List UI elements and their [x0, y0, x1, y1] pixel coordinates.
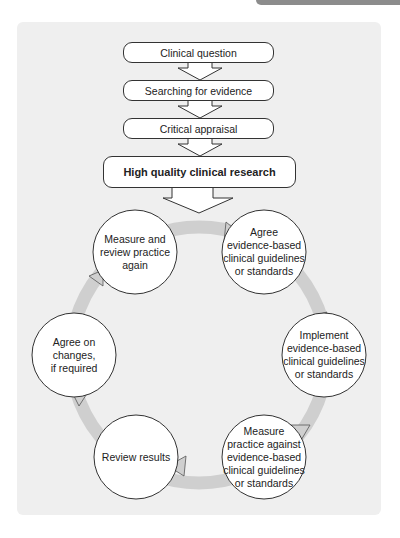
cycle-label: Review results — [102, 451, 170, 464]
cycle-node-measure-against: Measure practice against evidence-based … — [222, 415, 306, 499]
flow-label: Clinical question — [160, 47, 236, 59]
flow-label: Critical appraisal — [160, 123, 238, 135]
arrow-down-icon — [178, 100, 222, 118]
flow-label: Searching for evidence — [145, 85, 252, 97]
arrow-down-icon — [178, 138, 222, 156]
cycle-node-review-results: Review results — [94, 415, 178, 499]
flow-box-searching-for-evidence: Searching for evidence — [123, 80, 274, 101]
cycle-label: Measure and review practice again — [100, 233, 170, 272]
cycle-label: Agree on changes, if required — [32, 336, 116, 375]
cycle-node-agree-changes: Agree on changes, if required — [32, 313, 116, 397]
flow-label: High quality clinical research — [123, 166, 275, 178]
cycle-node-measure-again: Measure and review practice again — [93, 210, 177, 294]
flow-box-high-quality-research: High quality clinical research — [103, 156, 296, 188]
big-arrow-down-icon — [163, 187, 233, 213]
cycle-node-agree-guidelines: Agree evidence-based clinical guidelines… — [222, 210, 306, 294]
flow-box-clinical-question: Clinical question — [123, 42, 274, 63]
cycle-label: Implement evidence-based clinical guidel… — [283, 329, 365, 381]
cycle-node-implement: Implement evidence-based clinical guidel… — [282, 313, 366, 397]
arrow-down-icon — [178, 62, 222, 80]
flow-box-critical-appraisal: Critical appraisal — [123, 118, 274, 139]
cycle-label: Agree evidence-based clinical guidelines… — [223, 226, 305, 278]
cycle-label: Measure practice against evidence-based … — [223, 425, 305, 490]
